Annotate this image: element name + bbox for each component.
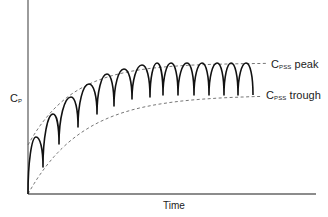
concentration-line <box>28 63 253 194</box>
x-axis-label: Time <box>163 200 185 211</box>
cpss-peak-label: CPSS peak <box>271 58 318 70</box>
y-axis-label: CP <box>10 92 22 104</box>
chart <box>0 0 328 217</box>
cpss-trough-label: CPSS trough <box>266 89 321 101</box>
envelope-curves <box>28 63 266 194</box>
concentration-curve <box>28 63 253 194</box>
peak-envelope <box>28 63 266 145</box>
